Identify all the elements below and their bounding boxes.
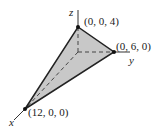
vertex-x — [23, 107, 27, 111]
diagram-canvas — [0, 0, 158, 133]
tetrahedron-diagram: z y x (0, 0, 4) (0, 6, 0) (12, 0, 0) — [0, 0, 158, 133]
y-axis-label: y — [129, 55, 134, 66]
vertex-label-x: (12, 0, 0) — [28, 107, 68, 118]
x-axis — [14, 109, 25, 120]
vertex-label-y: (0, 6, 0) — [116, 41, 151, 52]
vertex-z — [76, 25, 80, 29]
x-axis-label: x — [9, 117, 14, 128]
vertex-label-z: (0, 0, 4) — [84, 16, 119, 27]
z-axis-label: z — [69, 7, 73, 18]
